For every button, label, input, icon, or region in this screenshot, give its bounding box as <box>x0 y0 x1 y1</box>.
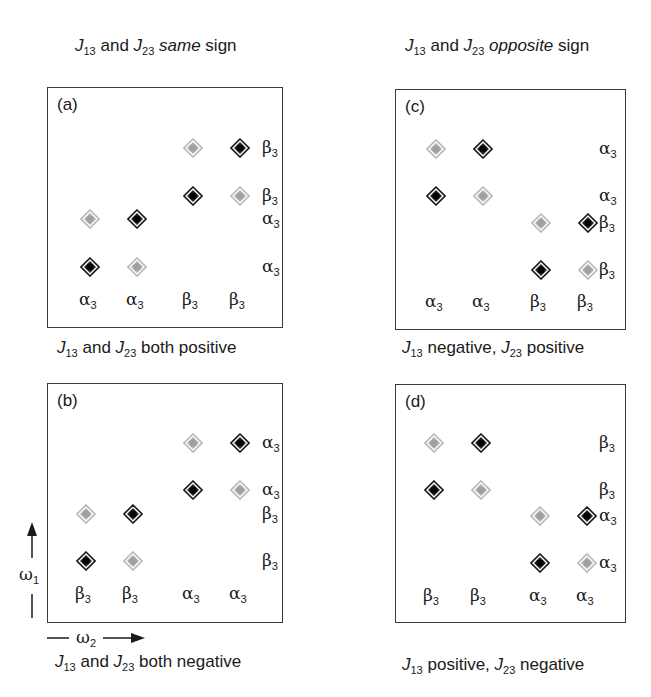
caption-b: J13 and J23 both negative <box>55 652 241 673</box>
omega-symbol: ω <box>76 627 90 647</box>
j-symbol: J <box>501 338 510 357</box>
right-spin-label: α3 <box>599 187 617 207</box>
caption-text: and <box>78 338 116 357</box>
caption-a: J13 and J23 both positive <box>57 338 237 359</box>
right-spin-label: β3 <box>262 187 278 207</box>
subscript: 23 <box>510 347 522 359</box>
omega2-label: ω2 <box>76 629 96 649</box>
right-spin-label: α3 <box>262 210 280 230</box>
right-spin-label: α3 <box>599 140 617 160</box>
right-spin-label: β3 <box>599 261 615 281</box>
bottom-spin-label: β3 <box>577 293 593 313</box>
bottom-spin-label: β3 <box>122 585 138 605</box>
omega1-label: ω1 <box>19 566 39 586</box>
omega-symbol: ω <box>19 564 33 584</box>
j-symbol: J <box>57 338 66 357</box>
caption-text: negative <box>515 655 584 674</box>
bottom-spin-label: β3 <box>470 587 486 607</box>
right-spin-label: α3 <box>262 481 280 501</box>
bottom-spin-label: β3 <box>530 293 546 313</box>
caption-d: J13 positive, J23 negative <box>402 655 584 676</box>
right-spin-label: α3 <box>262 258 280 278</box>
bottom-spin-label: β3 <box>423 587 439 607</box>
bottom-spin-label: α3 <box>425 293 443 313</box>
right-spin-label: β3 <box>599 434 615 454</box>
right-spin-label: β3 <box>599 481 615 501</box>
caption-text: negative, <box>423 338 501 357</box>
j-symbol: J <box>116 338 125 357</box>
bottom-spin-label: α3 <box>182 585 200 605</box>
right-spin-label: β3 <box>262 552 278 572</box>
bottom-spin-label: α3 <box>229 585 247 605</box>
caption-text: positive <box>522 338 584 357</box>
right-spin-label: β3 <box>599 214 615 234</box>
bottom-spin-label: α3 <box>79 291 97 311</box>
omega2-axis-arrow <box>45 630 155 646</box>
j-symbol: J <box>114 652 123 671</box>
subscript: 23 <box>122 661 134 673</box>
right-spin-label: α3 <box>262 434 280 454</box>
subscript: 23 <box>124 347 136 359</box>
subscript: 1 <box>33 574 39 586</box>
caption-text: both negative <box>134 652 241 671</box>
j-symbol: J <box>402 655 411 674</box>
subscript: 13 <box>64 661 76 673</box>
bottom-spin-label: β3 <box>229 291 245 311</box>
subscript: 13 <box>66 347 78 359</box>
bottom-spin-label: β3 <box>182 291 198 311</box>
subscript: 13 <box>411 664 423 676</box>
right-spin-label: α3 <box>599 507 617 527</box>
bottom-spin-label: α3 <box>576 587 594 607</box>
caption-c: J13 negative, J23 positive <box>402 338 584 359</box>
j-symbol: J <box>55 652 64 671</box>
subscript: 2 <box>90 637 96 649</box>
bottom-spin-label: β3 <box>75 585 91 605</box>
caption-text: positive, <box>423 655 495 674</box>
right-spin-label: α3 <box>599 554 617 574</box>
j-symbol: J <box>495 655 504 674</box>
right-spin-label: β3 <box>262 139 278 159</box>
caption-text: and <box>76 652 114 671</box>
subscript: 13 <box>411 347 423 359</box>
j-symbol: J <box>402 338 411 357</box>
subscript: 23 <box>503 664 515 676</box>
bottom-spin-label: α3 <box>126 291 144 311</box>
caption-text: both positive <box>136 338 236 357</box>
bottom-spin-label: α3 <box>529 587 547 607</box>
right-spin-label: β3 <box>262 505 278 525</box>
bottom-spin-label: α3 <box>472 293 490 313</box>
